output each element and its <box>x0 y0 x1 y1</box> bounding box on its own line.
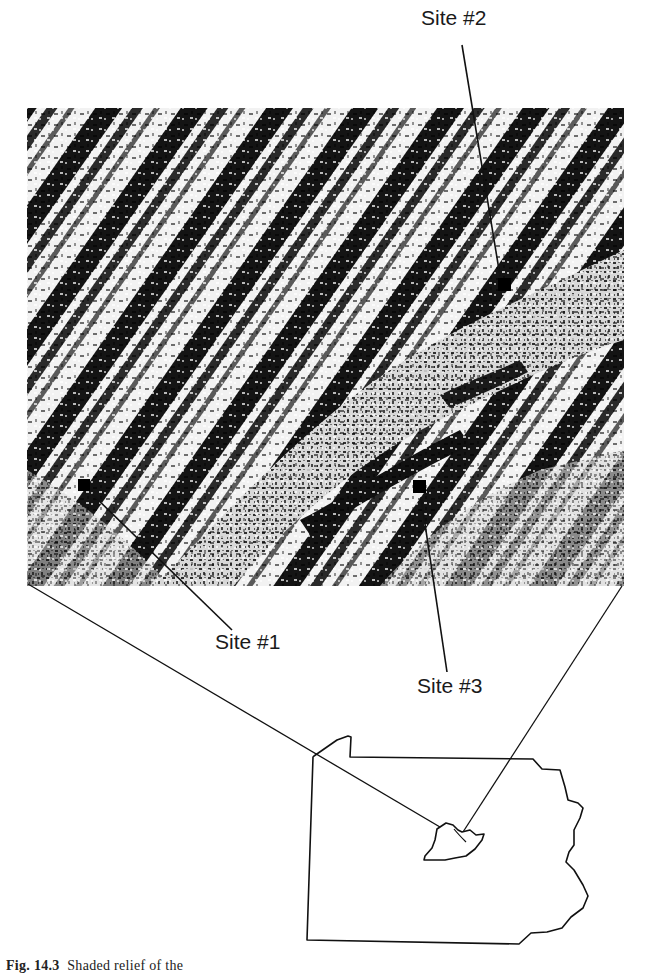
site2-label: Site #2 <box>421 6 486 30</box>
site3-marker <box>413 480 426 493</box>
site2-marker <box>498 278 511 291</box>
projection-lines <box>28 584 622 840</box>
site1-label: Site #1 <box>215 630 280 654</box>
site1-marker <box>78 479 90 491</box>
caption-text: Shaded relief of the <box>67 958 183 973</box>
caption-number: Fig. 14.3 <box>6 958 60 973</box>
figure-caption: Fig. 14.3 Shaded relief of the <box>6 958 183 974</box>
study-area-outline <box>424 823 484 860</box>
site3-label: Site #3 <box>417 674 482 698</box>
